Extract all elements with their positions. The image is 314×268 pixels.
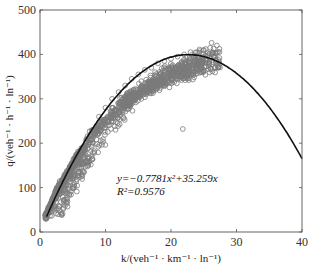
- y-tick-label: 400: [18, 47, 36, 61]
- y-tick-label: 100: [18, 181, 36, 195]
- x-tick-label: 40: [296, 235, 308, 249]
- r2-label: R²=0.9576: [116, 185, 165, 197]
- equation-label: y=−0.7781x²+35.259x: [116, 172, 218, 184]
- x-tick-label: 10: [100, 235, 112, 249]
- y-tick-label: 0: [30, 225, 36, 239]
- scatter-chart: 0102030400100200300400500 y=−0.7781x²+35…: [0, 0, 314, 268]
- x-tick-label: 30: [231, 235, 243, 249]
- plot-frame: [40, 10, 302, 232]
- x-tick-label: 0: [37, 235, 43, 249]
- y-tick-label: 300: [18, 92, 36, 106]
- y-tick-label: 500: [18, 3, 36, 17]
- x-axis-label: k/(veh⁻¹ · km⁻¹ · ln⁻¹): [121, 252, 221, 265]
- x-tick-label: 20: [165, 235, 177, 249]
- y-axis-label: q/(veh⁻¹ · h⁻¹ · ln⁻¹): [3, 75, 16, 167]
- y-tick-label: 200: [18, 136, 36, 150]
